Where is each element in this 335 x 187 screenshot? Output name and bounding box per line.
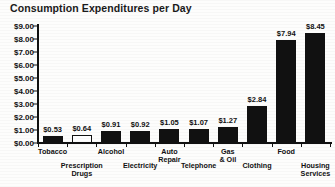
bar-value-label: $1.05 xyxy=(160,118,179,127)
bar-value-label: $7.94 xyxy=(277,29,296,38)
x-axis-category-label: Clothing xyxy=(242,162,271,170)
y-axis-tick-label: $4.00 xyxy=(14,87,34,96)
bar-value-label: $0.91 xyxy=(102,120,121,129)
x-axis-tick-mark xyxy=(67,143,68,147)
bar-value-label: $1.07 xyxy=(189,118,208,127)
bar[interactable] xyxy=(218,127,238,144)
x-axis-category-label: Electricity xyxy=(123,162,157,170)
y-axis-tick-label: $7.00 xyxy=(14,48,34,57)
y-axis-tick-mark xyxy=(33,78,37,79)
y-axis-tick-mark xyxy=(33,130,37,131)
x-axis-category-label: Alcohol xyxy=(98,148,124,156)
bar[interactable] xyxy=(43,136,63,143)
bar[interactable] xyxy=(130,131,150,143)
bar-value-label: $8.45 xyxy=(306,22,325,31)
bar-value-label: $2.84 xyxy=(248,95,267,104)
chart-title: Consumption Expenditures per Day xyxy=(10,2,192,14)
y-axis-tick-label: $2.00 xyxy=(14,113,34,122)
y-axis-tick-mark xyxy=(33,39,37,40)
bar[interactable] xyxy=(276,40,296,143)
bar-value-label: $0.64 xyxy=(72,124,91,133)
x-axis-tick-mark xyxy=(213,143,214,147)
bar-value-label: $0.53 xyxy=(43,125,62,134)
bar-slot: $7.94 xyxy=(272,26,301,143)
x-axis-tick-mark xyxy=(330,143,331,147)
bar-slot: $1.07 xyxy=(184,26,213,143)
x-axis-category-label: Tobacco xyxy=(38,148,67,156)
bar[interactable] xyxy=(247,106,267,143)
y-axis-tick-mark xyxy=(33,65,37,66)
x-axis-category-label: Gas & Oil xyxy=(219,148,236,163)
bar-value-label: $1.27 xyxy=(218,116,237,125)
x-axis-tick-mark xyxy=(155,143,156,147)
y-axis-tick-mark xyxy=(33,104,37,105)
bar-slot: $0.92 xyxy=(126,26,155,143)
bar[interactable] xyxy=(101,131,121,143)
bar-slot: $1.27 xyxy=(213,26,242,143)
bar[interactable] xyxy=(305,33,325,143)
bar-slot: $0.64 xyxy=(67,26,96,143)
x-axis-category-label: Food xyxy=(277,148,295,156)
bar-slot: $2.84 xyxy=(242,26,271,143)
bar[interactable] xyxy=(159,129,179,143)
y-axis-tick-label: $6.00 xyxy=(14,61,34,70)
y-axis-tick-label: $1.00 xyxy=(14,126,34,135)
bar-slot: $8.45 xyxy=(301,26,330,143)
x-axis-tick-mark xyxy=(272,143,273,147)
x-axis-tick-mark xyxy=(126,143,127,147)
y-axis-tick-label: $3.00 xyxy=(14,100,34,109)
y-axis-tick-mark xyxy=(33,52,37,53)
chart-container: Consumption Expenditures per Day $9.00$8… xyxy=(0,0,335,187)
bar-slot: $1.05 xyxy=(155,26,184,143)
y-axis-tick-mark xyxy=(33,91,37,92)
bar[interactable] xyxy=(72,135,92,143)
y-axis-tick-mark xyxy=(33,26,37,27)
y-axis-tick-label: $5.00 xyxy=(14,74,34,83)
x-axis-category-label: Housing Services xyxy=(301,162,331,177)
x-axis-tick-mark xyxy=(242,143,243,147)
bar-slot: $0.53 xyxy=(38,26,67,143)
x-axis-tick-mark xyxy=(184,143,185,147)
bar-slot: $0.91 xyxy=(96,26,125,143)
bar-value-label: $0.92 xyxy=(131,120,150,129)
plot-area: $0.53$0.64$0.91$0.92$1.05$1.07$1.27$2.84… xyxy=(38,26,330,143)
x-axis-category-label: Telephone xyxy=(181,162,216,170)
bar[interactable] xyxy=(189,129,209,143)
y-axis-tick-mark xyxy=(33,117,37,118)
y-axis-tick-mark xyxy=(33,143,37,144)
y-axis-tick-label: $0.00 xyxy=(14,139,34,148)
x-axis-tick-mark xyxy=(301,143,302,147)
x-axis-category-label: Auto Repair xyxy=(158,148,180,163)
y-axis-tick-label: $9.00 xyxy=(14,22,34,31)
y-axis-tick-label: $8.00 xyxy=(14,35,34,44)
x-axis-category-label: Prescription Drugs xyxy=(61,162,103,177)
